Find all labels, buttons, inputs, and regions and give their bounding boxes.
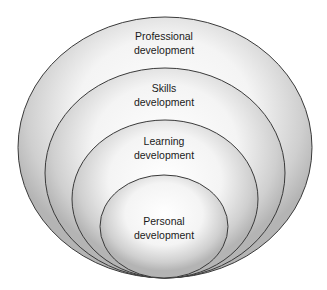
learning-development-label: Learning development — [84, 134, 244, 162]
label-line: development — [84, 148, 244, 162]
label-line: Skills — [84, 81, 244, 95]
label-line: Personal — [84, 214, 244, 228]
label-line: development — [84, 43, 244, 57]
skills-development-label: Skills development — [84, 81, 244, 109]
personal-development-label: Personal development — [84, 214, 244, 242]
label-line: Learning — [84, 134, 244, 148]
professional-development-label: Professional development — [84, 29, 244, 57]
label-line: development — [84, 228, 244, 242]
label-line: development — [84, 95, 244, 109]
label-line: Professional — [84, 29, 244, 43]
